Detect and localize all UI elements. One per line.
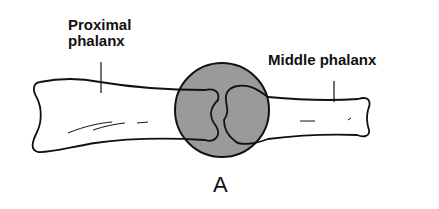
figure-letter: A [213,172,228,198]
middle-shaft-marks [300,118,351,121]
middle-phalanx-label: Middle phalanx [268,52,376,68]
proximal-shaft-marks [68,122,148,133]
proximal-label-line1: Proximal [68,17,131,33]
proximal-phalanx-label: Proximal phalanx [68,17,131,49]
proximal-label-line2: phalanx [68,33,131,49]
